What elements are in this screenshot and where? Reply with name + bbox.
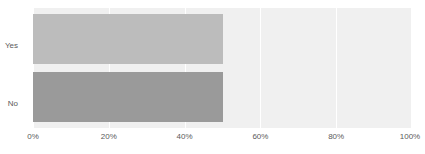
x-axis-tick-0: 0% xyxy=(8,131,58,143)
gridline-80pct xyxy=(336,8,337,128)
x-axis-tick-60: 60% xyxy=(235,131,285,143)
x-axis-tick-100: 100% xyxy=(385,131,425,143)
plot-area xyxy=(33,8,412,128)
bar-yes[interactable] xyxy=(33,14,223,64)
x-axis: 0% 20% 40% 60% 80% 100% xyxy=(0,131,425,145)
x-axis-tick-20: 20% xyxy=(84,131,134,143)
bar-no[interactable] xyxy=(33,72,223,122)
x-axis-tick-80: 80% xyxy=(311,131,361,143)
y-axis-label-yes: Yes xyxy=(0,41,18,51)
gridline-100pct xyxy=(411,8,412,128)
y-axis-label-no: No xyxy=(0,99,18,109)
bar-chart: Yes No 0% 20% 40% 60% 80% 100% xyxy=(0,0,425,154)
gridline-60pct xyxy=(260,8,261,128)
x-axis-tick-40: 40% xyxy=(160,131,210,143)
